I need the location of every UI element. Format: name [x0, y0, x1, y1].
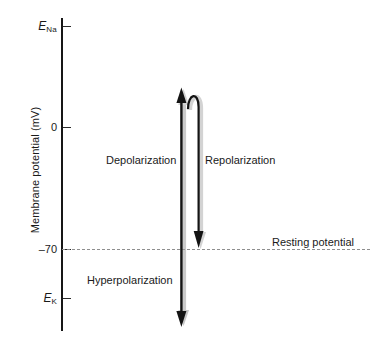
y-tick-e-na	[63, 26, 71, 27]
y-tick-zero	[63, 127, 71, 128]
resting-potential-label: Resting potential	[272, 236, 354, 248]
e-k-subscript: K	[51, 297, 57, 306]
y-tick-label-e-na: ENa	[38, 20, 57, 34]
action-potential-phase-diagram: ENa 0 –70 EK Membrane potential (mV) Res…	[0, 0, 381, 348]
hyperpolarization-label: Hyperpolarization	[87, 274, 173, 286]
e-na-subscript: Na	[46, 25, 57, 34]
depolarization-label: Depolarization	[106, 154, 176, 166]
repolarization-arrow	[186, 86, 212, 254]
y-tick-e-k	[63, 298, 71, 299]
y-tick-label-zero: 0	[51, 121, 57, 133]
y-tick-label-e-k: EK	[43, 292, 57, 306]
resting-potential-line	[62, 249, 370, 250]
repolarization-label: Repolarization	[205, 154, 275, 166]
y-axis-title: Membrane potential (mV)	[29, 95, 41, 245]
y-axis-line	[61, 18, 63, 331]
y-tick-label-minus70: –70	[39, 243, 57, 255]
